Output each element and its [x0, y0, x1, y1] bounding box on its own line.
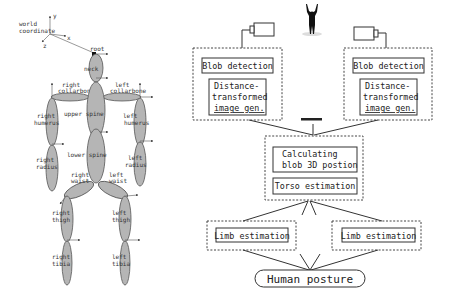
skeleton-model: world coordinate y x z root neck right c…	[19, 12, 153, 285]
camera-unit-left: Blob detection Distance- transformed ima…	[193, 48, 282, 120]
svg-text:left: left	[112, 209, 127, 216]
svg-text:upper spine: upper spine	[64, 110, 104, 118]
svg-text:waist: waist	[109, 177, 127, 184]
root-label: root	[90, 45, 105, 52]
svg-text:thigh: thigh	[52, 216, 70, 224]
svg-text:blob 3D postion: blob 3D postion	[282, 160, 358, 170]
svg-text:transformed: transformed	[212, 92, 267, 102]
right-collarbone-segment	[51, 93, 89, 101]
camera-unit-right: Blob detection Distance- transformed ima…	[344, 48, 432, 120]
svg-text:Torso estimation: Torso estimation	[275, 181, 356, 191]
svg-text:image gen.: image gen.	[214, 103, 264, 113]
diagram-canvas: world coordinate y x z root neck right c…	[0, 0, 454, 306]
svg-text:Blob detection: Blob detection	[353, 61, 424, 71]
svg-text:Blob detection: Blob detection	[202, 61, 273, 71]
more-cameras-ellipsis	[301, 118, 322, 121]
left-collarbone-segment	[103, 93, 141, 101]
svg-text:Human posture: Human posture	[267, 273, 353, 286]
svg-text:left: left	[128, 154, 143, 161]
camera-right-icon	[354, 27, 386, 48]
svg-text:transformed: transformed	[363, 92, 418, 102]
svg-text:waist: waist	[71, 177, 89, 184]
svg-text:Distance-: Distance-	[365, 81, 410, 91]
svg-text:left: left	[112, 253, 127, 260]
flowchart: Blob detection Distance- transformed ima…	[193, 4, 432, 287]
svg-text:humerus: humerus	[124, 119, 150, 126]
world-coordinate-axes: world coordinate y x z	[19, 12, 94, 53]
svg-text:radius: radius	[36, 163, 58, 170]
svg-text:tibia: tibia	[52, 260, 70, 267]
limb-unit-right: Limb estimation	[332, 221, 421, 250]
svg-text:Limb estimation: Limb estimation	[214, 231, 290, 241]
center-unit: Calculating blob 3D postion Torso estima…	[265, 136, 363, 200]
z-axis-label: z	[43, 42, 47, 49]
svg-text:lower spine: lower spine	[67, 151, 107, 159]
svg-text:left: left	[123, 112, 138, 119]
svg-text:collarbone: collarbone	[110, 87, 147, 94]
svg-text:thigh: thigh	[112, 216, 130, 224]
person-icon	[302, 4, 322, 36]
camera-left-icon	[242, 23, 274, 48]
limb-unit-left: Limb estimation	[207, 221, 296, 250]
svg-text:image gen.: image gen.	[365, 103, 415, 113]
svg-text:Distance-: Distance-	[214, 81, 259, 91]
svg-text:neck: neck	[84, 65, 99, 72]
svg-text:humerus: humerus	[34, 119, 60, 126]
y-axis-label: y	[53, 12, 57, 20]
x-axis-label: x	[67, 34, 71, 41]
svg-text:radius: radius	[125, 161, 147, 168]
svg-text:Limb estimation: Limb estimation	[341, 231, 417, 241]
world-label: world	[19, 20, 37, 27]
svg-text:tibia: tibia	[112, 260, 130, 267]
human-posture-output: Human posture	[255, 270, 365, 287]
svg-text:Calculating: Calculating	[282, 149, 337, 159]
